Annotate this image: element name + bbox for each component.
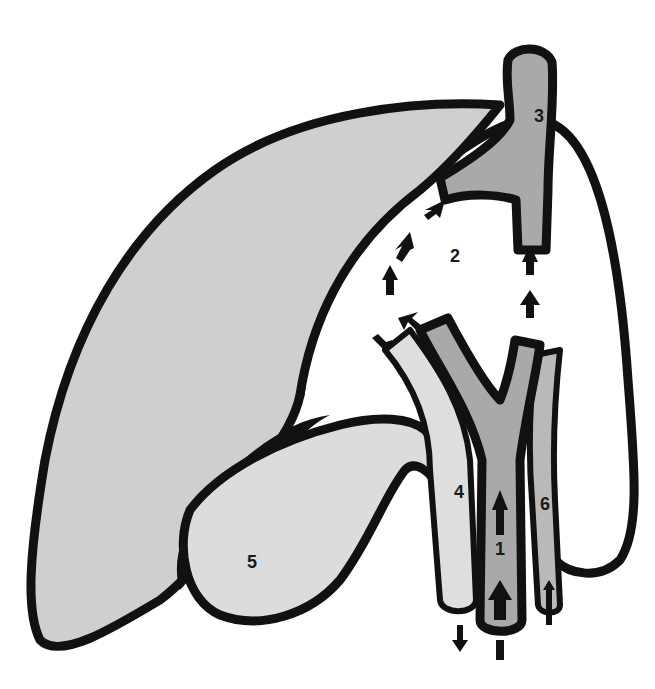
label-gallbladder: 5 bbox=[247, 552, 257, 572]
arrow-down-icon bbox=[452, 625, 468, 652]
arrow-up-icon bbox=[496, 640, 504, 660]
label-hepatic-artery: 6 bbox=[540, 494, 550, 514]
label-portal-vein: 1 bbox=[495, 539, 505, 559]
liver-flow-diagram: 1 2 3 4 5 6 bbox=[0, 0, 655, 689]
label-bile-duct: 4 bbox=[454, 482, 464, 502]
label-liver-tissue: 2 bbox=[450, 246, 460, 266]
label-hepatic-vein: 3 bbox=[534, 106, 544, 126]
